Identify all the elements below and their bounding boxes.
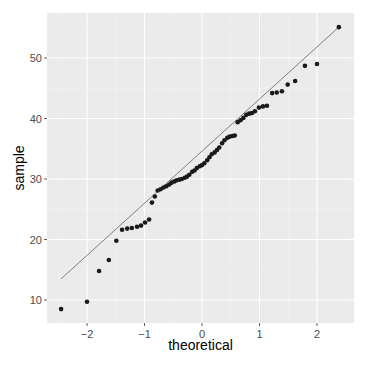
x-tick-label: −2 (81, 328, 94, 340)
y-tick-label: 50 (30, 52, 42, 64)
y-tick-label: 40 (30, 113, 42, 125)
data-point (303, 64, 308, 69)
data-point (59, 307, 64, 312)
data-point (97, 269, 102, 274)
y-axis-title: sample (11, 145, 27, 190)
x-axis-title: theoretical (168, 337, 233, 353)
data-point (261, 104, 266, 109)
data-point (337, 25, 342, 30)
qq-plot: −2−1012 1020304050 theoretical sample (0, 0, 369, 368)
data-point (135, 224, 140, 229)
data-point (274, 90, 279, 95)
data-point (150, 200, 155, 205)
data-point (257, 105, 262, 110)
data-point (114, 238, 119, 243)
y-tick-label: 30 (30, 173, 42, 185)
data-point (139, 223, 144, 228)
data-point (120, 228, 125, 233)
x-tick-label: 2 (314, 328, 320, 340)
data-point (130, 226, 135, 231)
data-point (265, 103, 270, 108)
x-tick-label: −1 (138, 328, 151, 340)
y-tick-label: 10 (30, 294, 42, 306)
data-point (315, 62, 320, 67)
data-point (270, 91, 275, 96)
data-point (293, 79, 298, 84)
data-point (232, 133, 237, 138)
data-point (143, 220, 148, 225)
data-point (253, 109, 258, 114)
data-point (153, 194, 158, 199)
data-point (125, 226, 130, 231)
data-point (147, 217, 152, 222)
data-point (85, 300, 90, 305)
y-tick-label: 20 (30, 234, 42, 246)
x-tick-label: 1 (256, 328, 262, 340)
data-point (280, 89, 285, 94)
y-axis-ticks: 1020304050 (30, 52, 47, 306)
data-point (217, 145, 222, 150)
data-point (285, 82, 290, 87)
data-point (107, 258, 112, 263)
